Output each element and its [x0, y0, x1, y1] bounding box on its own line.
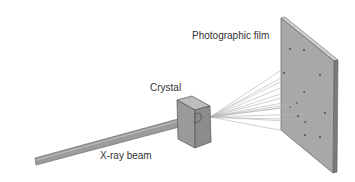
crystal — [177, 96, 211, 148]
xray-diffraction-diagram: Photographic film Crystal X-ray beam — [0, 0, 355, 182]
xray-beam-label: X-ray beam — [100, 150, 152, 161]
film-label: Photographic film — [192, 30, 269, 41]
photographic-film — [281, 17, 338, 173]
crystal-label: Crystal — [150, 82, 181, 93]
